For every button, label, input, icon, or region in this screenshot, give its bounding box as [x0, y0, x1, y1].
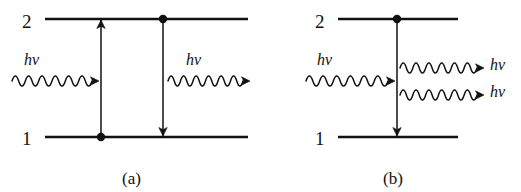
energy-level-diagram: 21hνhν(a)21hνhνhν(b): [0, 0, 521, 192]
panel-a-incoming-photon-label: hν: [24, 52, 39, 68]
panel-b-outgoing-photon-2-wave: [400, 90, 477, 100]
panel-b-outgoing-photon-1-label: hν: [490, 57, 505, 73]
panel-b-incoming-photon-label: hν: [317, 52, 332, 68]
panel-b-upper-level-label: 2: [315, 12, 325, 31]
diagram-canvas: [0, 0, 521, 192]
panel-a-lower-level-label: 1: [22, 129, 32, 148]
panel-b-lower-level-label: 1: [315, 129, 325, 148]
panel-a-caption: (a): [122, 170, 141, 187]
panel-a-outgoing-photon-wave: [168, 76, 243, 86]
panel-b-outgoing-photon-1-wave: [400, 63, 477, 73]
panel-b-incoming-photon-wave: [306, 76, 388, 86]
panel-a-incoming-photon-wave: [12, 76, 92, 86]
panel-a-electron-dot-upper: [159, 15, 167, 23]
panel-b-electron-dot-upper: [393, 15, 401, 23]
panel-a-upper-level-label: 2: [22, 12, 32, 31]
panel-a-outgoing-photon-label: hν: [186, 52, 201, 68]
panel-b-outgoing-photon-2-label: hν: [490, 84, 505, 100]
panel-a-electron-dot-lower: [97, 133, 105, 141]
panel-b-caption: (b): [383, 170, 403, 187]
